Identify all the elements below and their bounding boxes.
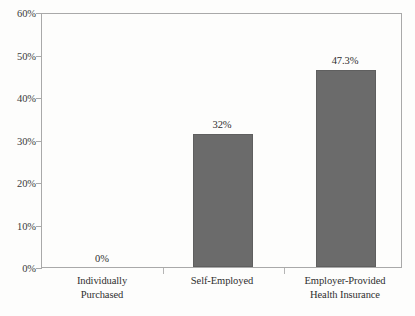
y-axis-label-0: 0% [2,263,36,274]
y-tick-mark-20 [36,183,42,184]
bar-employer-provided-health-insurance [316,70,376,267]
bar-self-employed [193,134,253,267]
x-axis-label-individually-purchased: Individually Purchased [42,274,162,301]
y-axis-label-50: 50% [2,50,36,61]
y-tick-mark-30 [36,141,42,142]
y-axis-label-60: 60% [2,8,36,19]
y-axis-label-10: 10% [2,220,36,231]
bar-label-self-employed: 32% [213,119,232,130]
y-tick-mark-60 [36,13,42,14]
y-axis-label-40: 40% [2,93,36,104]
y-tick-mark-40 [36,98,42,99]
y-axis-label-30: 30% [2,135,36,146]
x-axis-label-line-2: Health Insurance [278,288,413,302]
y-tick-mark-10 [36,226,42,227]
plot-area [41,13,402,268]
bar-label-individually-purchased: 0% [95,253,109,264]
y-tick-mark-0 [36,268,42,269]
bar-label-employer-provided-health-insurance: 47.3% [332,55,359,66]
y-axis-label-20: 20% [2,178,36,189]
x-axis-label-self-employed: Self-Employed [162,274,282,288]
x-axis-label-line-1: Employer-Provided [305,275,386,286]
bar-chart: 60% 50% 40% 30% 20% 10% 0% 0% 32% 47.3% … [0,0,415,316]
x-axis-label-employer-provided-health-insurance: Employer-Provided Health Insurance [278,274,413,301]
x-axis-label-line-1: Self-Employed [191,275,253,286]
x-axis-label-line-2: Purchased [42,288,162,302]
y-tick-mark-50 [36,56,42,57]
x-axis-label-line-1: Individually [77,275,127,286]
